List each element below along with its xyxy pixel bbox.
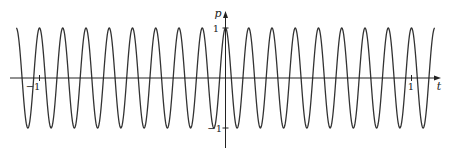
p-axis-arrow-icon [223, 11, 228, 18]
chart-plot: −1 1 1 −1 t p [0, 0, 453, 155]
y-tick-label-pos: 1 [213, 23, 219, 34]
x-tick-label-neg: −1 [26, 81, 41, 92]
x-tick-label-pos: 1 [408, 81, 414, 92]
y-axis-label: p [214, 7, 221, 20]
x-axis-label: t [437, 80, 442, 93]
y-tick-label-neg: −1 [207, 123, 222, 134]
